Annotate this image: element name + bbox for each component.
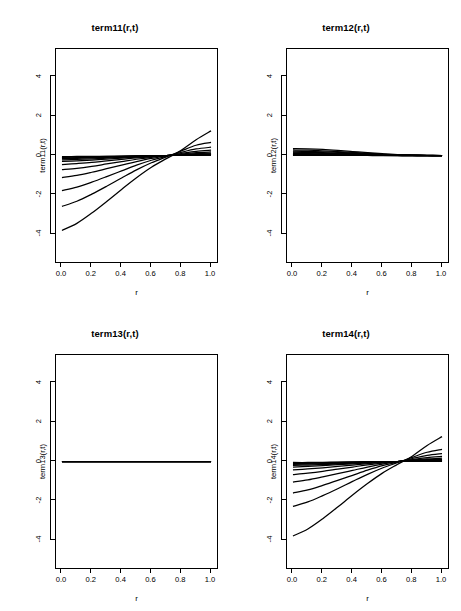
panel-term14: term14(r,t) term14(r,t) r 420-2-40.00.20… [231, 306, 461, 611]
curve-term11-t1 [62, 131, 211, 231]
y-tick-label: -2 [264, 186, 276, 202]
y-tick-label: -4 [33, 531, 45, 547]
x-tick-label: 0.4 [109, 575, 133, 584]
x-axis-label-term12: r [286, 288, 449, 297]
x-tick-label: 1.0 [429, 575, 453, 584]
plot-svg-term11 [56, 49, 217, 262]
x-tick-label: 0.8 [168, 269, 192, 278]
panel-title-term14: term14(r,t) [231, 328, 461, 339]
curve-term14-t12 [293, 461, 442, 462]
y-tick-label: 4 [264, 68, 276, 84]
x-tick-label: 0.2 [79, 269, 103, 278]
x-tick-label: 1.0 [198, 269, 222, 278]
y-tick-label: 4 [33, 68, 45, 84]
x-tick-label: 0.8 [168, 575, 192, 584]
x-tick-label: 0.6 [138, 575, 162, 584]
curve-term14-t1 [293, 437, 442, 536]
x-tick-label: 0.0 [280, 269, 304, 278]
x-axis-label-term13: r [55, 594, 218, 603]
x-axis-spine [61, 262, 210, 263]
x-tick-label: 0.4 [340, 575, 364, 584]
x-tick-label: 1.0 [198, 575, 222, 584]
x-tick-label: 0.8 [399, 269, 423, 278]
y-tick-label: -2 [33, 492, 45, 508]
y-tick-label: 0 [264, 147, 276, 163]
figure-canvas: term11(r,t) term11(r,t) r 420-2-40.00.20… [0, 0, 461, 611]
plot-area-term13 [55, 354, 218, 569]
y-tick-label: -4 [264, 531, 276, 547]
panel-title-term11: term11(r,t) [0, 22, 230, 33]
x-tick-label: 0.0 [49, 269, 73, 278]
y-axis-spine [50, 76, 51, 234]
y-axis-spine [281, 76, 282, 234]
y-tick-label: 4 [33, 374, 45, 390]
x-tick-label: 0.6 [369, 575, 393, 584]
y-tick-label: 0 [33, 453, 45, 469]
plot-area-term12 [286, 48, 449, 263]
x-tick-label: 0.2 [79, 575, 103, 584]
x-tick-label: 0.4 [340, 269, 364, 278]
plot-svg-term13 [56, 355, 217, 568]
x-axis-label-term11: r [55, 288, 218, 297]
y-axis-spine [281, 382, 282, 540]
x-axis-spine [292, 262, 441, 263]
y-tick-label: -4 [33, 225, 45, 241]
x-tick-label: 0.8 [399, 575, 423, 584]
y-axis-spine [50, 382, 51, 540]
x-tick-label: 1.0 [429, 269, 453, 278]
panel-term12: term12(r,t) term12(r,t) r 420-2-40.00.20… [231, 0, 461, 305]
y-tick-label: 0 [264, 453, 276, 469]
y-tick-label: 2 [33, 107, 45, 123]
plot-svg-term12 [287, 49, 448, 262]
plot-area-term11 [55, 48, 218, 263]
panel-term11: term11(r,t) term11(r,t) r 420-2-40.00.20… [0, 0, 230, 305]
y-tick-label: 4 [264, 374, 276, 390]
x-axis-spine [61, 568, 210, 569]
y-tick-label: -2 [33, 186, 45, 202]
x-tick-label: 0.4 [109, 269, 133, 278]
x-axis-spine [292, 568, 441, 569]
y-tick-label: 2 [264, 107, 276, 123]
x-tick-label: 0.6 [369, 269, 393, 278]
panel-title-term12: term12(r,t) [231, 22, 461, 33]
x-tick-label: 0.0 [280, 575, 304, 584]
plot-area-term14 [286, 354, 449, 569]
x-tick-label: 0.2 [310, 269, 334, 278]
y-tick-label: 0 [33, 147, 45, 163]
curve-term11-t12 [62, 155, 211, 157]
panel-title-term13: term13(r,t) [0, 328, 230, 339]
x-tick-label: 0.2 [310, 575, 334, 584]
y-tick-label: 2 [33, 413, 45, 429]
y-tick-label: -2 [264, 492, 276, 508]
panel-term13: term13(r,t) term13(r,t) r 420-2-40.00.20… [0, 306, 230, 611]
x-axis-label-term14: r [286, 594, 449, 603]
x-tick-label: 0.0 [49, 575, 73, 584]
y-tick-label: 2 [264, 413, 276, 429]
y-tick-label: -4 [264, 225, 276, 241]
x-tick-label: 0.6 [138, 269, 162, 278]
plot-svg-term14 [287, 355, 448, 568]
